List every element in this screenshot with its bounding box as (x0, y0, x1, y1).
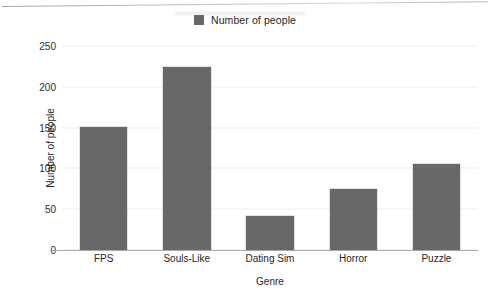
bar-slot (228, 46, 311, 250)
legend-label: Number of people (211, 14, 296, 26)
chart-legend: Number of people (0, 14, 490, 26)
bar-slot (395, 46, 478, 250)
x-axis-tick-labels: FPSSouls-LikeDating SimHorrorPuzzle (62, 253, 478, 264)
bar-dating-sim[interactable] (246, 216, 293, 250)
y-axis-tick-label: 200 (39, 81, 56, 92)
x-axis-baseline (50, 250, 478, 251)
bar-chart: Number of people 050100150200250 FPSSoul… (0, 0, 490, 301)
bar-fps[interactable] (80, 127, 127, 250)
bar-souls-like[interactable] (163, 67, 210, 250)
x-axis-tick-label: Souls-Like (145, 253, 228, 264)
bar-horror[interactable] (330, 189, 377, 250)
y-axis-tick-label: 250 (39, 41, 56, 52)
bar-puzzle[interactable] (413, 164, 460, 250)
bar-slot (312, 46, 395, 250)
y-axis-title: Number of people (45, 108, 56, 188)
x-axis-tick-label: Horror (312, 253, 395, 264)
y-axis-tick-label: 50 (45, 204, 56, 215)
bar-slot (62, 46, 145, 250)
x-axis-tick-label: Puzzle (395, 253, 478, 264)
x-axis-tick-label: Dating Sim (228, 253, 311, 264)
x-axis-title: Genre (62, 276, 478, 287)
bar-slot (145, 46, 228, 250)
plot-area: 050100150200250 (62, 46, 478, 250)
bar-series (62, 46, 478, 250)
legend-color-swatch (194, 15, 204, 25)
x-axis-tick-label: FPS (62, 253, 145, 264)
